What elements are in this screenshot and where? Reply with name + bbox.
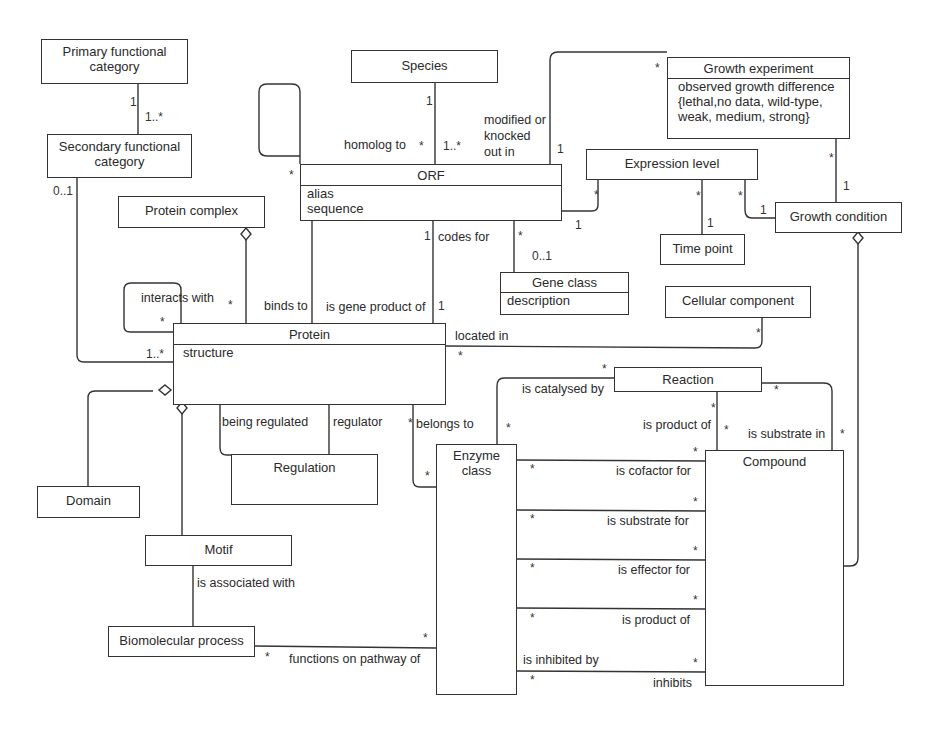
- class-attributes: structure: [174, 345, 445, 360]
- class-name: Time point: [661, 235, 744, 256]
- attribute: {lethal,no data, wild-type,: [678, 94, 843, 109]
- label-is-catalysed-by: is catalysed by: [522, 382, 604, 396]
- class-secondary-functional-category[interactable]: Secondary functional category: [47, 134, 192, 178]
- mult-condition-1-b: 1: [843, 180, 850, 193]
- class-attributes: observed growth difference {lethal,no da…: [668, 79, 849, 124]
- mult-belongs-many-a: *: [408, 417, 413, 430]
- class-domain[interactable]: Domain: [37, 486, 140, 518]
- attribute: description: [507, 293, 622, 308]
- label-is-cofactor-for: is cofactor for: [616, 464, 691, 478]
- mult-codes-for-1: 1: [424, 230, 431, 243]
- mult-substrate-for-many-a: *: [530, 513, 535, 526]
- mult-effector-many-b: *: [693, 545, 698, 558]
- mult-gene-product-1: 1: [438, 300, 445, 313]
- mult-secondary-1-many: 1..*: [145, 111, 163, 124]
- label-codes-for: codes for: [438, 230, 489, 244]
- label-belongs-to: belongs to: [416, 417, 474, 431]
- class-name: Protein complex: [119, 197, 264, 218]
- attribute: alias: [307, 186, 555, 201]
- mult-inhibited-many-a: *: [693, 657, 698, 670]
- class-name: Domain: [38, 487, 139, 508]
- class-time-point[interactable]: Time point: [660, 234, 745, 265]
- mult-reaction-many-a: *: [602, 363, 607, 376]
- class-regulation[interactable]: Regulation: [231, 454, 378, 505]
- mult-substrate-for-many-b: *: [693, 496, 698, 509]
- class-name: Compound: [706, 451, 843, 469]
- class-protein[interactable]: Protein structure: [173, 323, 446, 405]
- class-cellular-component[interactable]: Cellular component: [665, 286, 811, 318]
- class-gene-class[interactable]: Gene class description: [500, 272, 629, 315]
- attribute: weak, medium, strong}: [678, 109, 843, 124]
- attribute: sequence: [307, 201, 555, 216]
- class-name: Gene class: [501, 273, 628, 293]
- class-name: Species: [352, 51, 497, 73]
- mult-pathway-many-a: *: [265, 651, 270, 664]
- label-is-substrate-in: is substrate in: [748, 427, 825, 441]
- class-biomolecular-process[interactable]: Biomolecular process: [108, 626, 255, 657]
- class-attributes: description: [501, 293, 628, 308]
- label-regulator: regulator: [333, 415, 382, 429]
- class-orf[interactable]: ORF alias sequence: [300, 164, 562, 221]
- class-name: Enzyme class: [437, 445, 516, 478]
- mult-located-many-b: *: [756, 327, 761, 340]
- class-compound[interactable]: Compound: [705, 450, 844, 686]
- mult-cofactor-many-b: *: [693, 446, 698, 459]
- class-expression-level[interactable]: Expression level: [586, 149, 758, 180]
- label-is-substrate-for: is substrate for: [607, 514, 689, 528]
- class-primary-functional-category[interactable]: Primary functional category: [41, 39, 188, 84]
- mult-reaction-product-many: *: [711, 402, 716, 415]
- mult-cofactor-many-a: *: [530, 463, 535, 476]
- mult-homolog-many-b: *: [289, 169, 294, 182]
- mult-species-1: 1: [426, 95, 433, 108]
- mult-reaction-substrate-many: *: [774, 384, 779, 397]
- class-name: Growth condition: [776, 203, 901, 224]
- mult-enzyme-catalysed-many: *: [506, 422, 511, 435]
- mult-secondary-0-1: 0..1: [53, 185, 73, 198]
- class-name: Protein: [174, 324, 445, 345]
- class-name: Biomolecular process: [109, 627, 254, 648]
- class-name: Expression level: [587, 150, 757, 171]
- mult-located-many-a: *: [458, 350, 463, 363]
- mult-orf-knocked-1: 1: [557, 143, 564, 156]
- mult-orf-expression-1: 1: [575, 219, 582, 232]
- label-inhibits: inhibits: [653, 676, 692, 690]
- attribute: observed growth difference: [678, 79, 843, 94]
- mult-timepoint-1: 1: [707, 217, 714, 230]
- mult-expression-many-b: *: [696, 190, 701, 203]
- class-growth-experiment[interactable]: Growth experiment observed growth differ…: [667, 57, 850, 139]
- mult-condition-1-a: 1: [760, 204, 767, 217]
- class-name: ORF: [301, 165, 561, 186]
- class-enzyme-class[interactable]: Enzyme class: [436, 444, 517, 695]
- class-name: Regulation: [232, 455, 377, 475]
- label-modified-or-knocked-out-in: modified or knocked out in: [484, 112, 546, 160]
- mult-orf-geneclass-many: *: [518, 230, 523, 243]
- class-species[interactable]: Species: [351, 50, 498, 83]
- class-growth-condition[interactable]: Growth condition: [775, 202, 902, 233]
- label-located-in: located in: [455, 329, 509, 343]
- class-reaction[interactable]: Reaction: [614, 367, 762, 392]
- class-name: Cellular component: [666, 287, 810, 308]
- mult-pathway-many-b: *: [423, 632, 428, 645]
- class-protein-complex[interactable]: Protein complex: [118, 196, 265, 228]
- label-functions-on-pathway-of: functions on pathway of: [289, 652, 420, 666]
- label-is-effector-for: is effector for: [618, 563, 690, 577]
- mult-inhibits-many-b: *: [530, 674, 535, 687]
- class-name: Primary functional category: [42, 40, 187, 74]
- label-is-associated-with: is associated with: [197, 576, 295, 590]
- mult-product-of-many-b: *: [693, 594, 698, 607]
- label-is-inhibited-by: is inhibited by: [523, 653, 599, 667]
- mult-compound-product-many: *: [724, 424, 729, 437]
- mult-geneclass-0-1: 0..1: [532, 250, 552, 263]
- label-interacts-with: interacts with: [141, 291, 214, 305]
- mult-product-of-many-a: *: [530, 612, 535, 625]
- mult-primary-1: 1: [130, 96, 137, 109]
- mult-interacts-many-a: *: [228, 299, 233, 312]
- class-name: Secondary functional category: [48, 135, 191, 169]
- class-name: Growth experiment: [668, 58, 849, 79]
- mult-expression-many-c: *: [738, 190, 743, 203]
- class-name: Motif: [146, 536, 291, 557]
- mult-compound-substrate-many: *: [840, 428, 845, 441]
- mult-orf-1-many: 1..*: [443, 140, 461, 153]
- mult-interacts-many-b: *: [160, 316, 165, 329]
- class-motif[interactable]: Motif: [145, 535, 292, 566]
